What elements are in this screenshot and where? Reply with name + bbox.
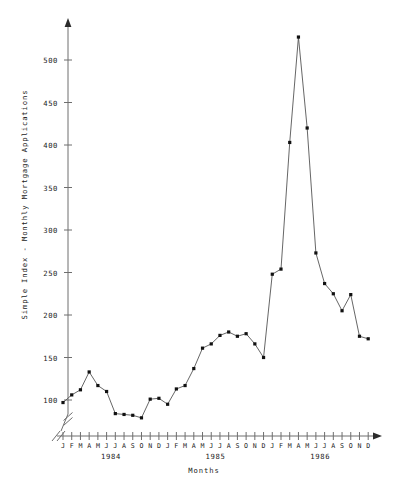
data-point-marker [175,387,178,390]
data-point-marker [114,412,117,415]
x-axis-month-label: D [363,442,373,450]
data-point-marker [131,414,134,417]
data-series-line [63,37,368,418]
data-point-marker [323,282,326,285]
data-point-marker [218,334,221,337]
y-axis-tick-label: 500 [32,56,58,65]
data-point-marker [79,388,82,391]
mortgage-applications-line-chart: Simple Index - Monthly Mortgage Applicat… [0,0,408,491]
chart-axes [52,18,382,441]
data-point-marker [96,384,99,387]
data-point-marker [340,309,343,312]
data-point-marker [122,413,125,416]
y-axis-tick-label: 350 [32,184,58,193]
data-point-marker [61,401,64,404]
data-point-marker [253,342,256,345]
data-point-marker [367,337,370,340]
data-point-marker [236,335,239,338]
data-point-marker [210,342,213,345]
chart-plot-area [0,0,408,491]
data-point-marker [166,403,169,406]
data-point-marker [140,416,143,419]
data-point-marker [149,398,152,401]
data-point-marker [183,384,186,387]
data-point-marker [358,335,361,338]
data-point-marker [314,251,317,254]
data-point-marker [227,330,230,333]
data-point-marker [332,292,335,295]
data-point-marker [306,126,309,129]
y-axis-arrow-icon [65,18,72,27]
data-point-marker [157,397,160,400]
data-point-marker [192,367,195,370]
data-point-marker [88,370,91,373]
data-point-marker [201,347,204,350]
data-point-marker [349,293,352,296]
y-axis-tick-label: 450 [32,99,58,108]
y-axis-tick-label: 400 [32,141,58,150]
x-axis-title: Months [0,466,408,475]
x-axis-year-label: 1986 [298,452,342,461]
x-axis-arrow-icon [373,433,382,440]
data-point-marker [279,268,282,271]
y-axis-tick-label: 200 [32,311,58,320]
data-point-marker [70,393,73,396]
data-point-marker [105,390,108,393]
data-point-marker [271,273,274,276]
y-axis-tick-label: 250 [32,269,58,278]
data-point-marker [288,141,291,144]
data-point-marker [245,332,248,335]
data-point-marker [297,35,300,38]
x-axis-year-label: 1985 [194,452,238,461]
y-axis-tick-label: 150 [32,354,58,363]
data-point-markers [61,35,369,419]
y-axis-tick-label: 300 [32,226,58,235]
x-axis-year-label: 1984 [89,452,133,461]
data-point-marker [262,356,265,359]
y-axis-tick-label: 100 [32,396,58,405]
y-axis-title: Simple Index - Monthly Mortgage Applicat… [20,100,29,320]
